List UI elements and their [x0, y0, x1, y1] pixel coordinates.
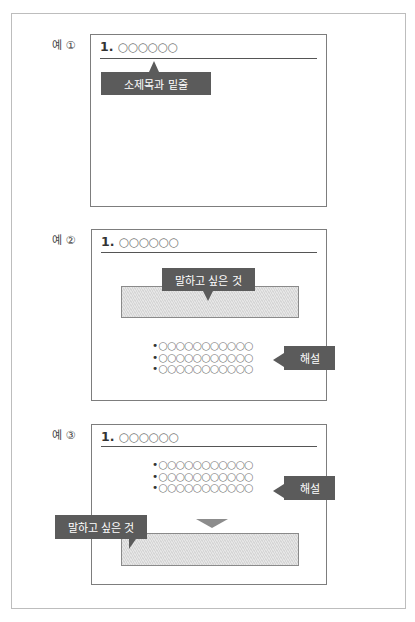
example-2-label: 예 ② [52, 231, 75, 247]
bullet-list: •○○○○○○○○○○○ •○○○○○○○○○○○ •○○○○○○○○○○○ [152, 459, 253, 494]
slide-title-text: ○○○○○○ [118, 235, 178, 249]
slide-title: 1. ○○○○○○ [101, 429, 178, 444]
example-2-slide: 1. ○○○○○○ 말하고 싶은 것 •○○○○○○○○○○○ •○○○○○○○… [91, 229, 327, 401]
callout-pointer-down-icon [129, 539, 136, 549]
bullet-list: •○○○○○○○○○○○ •○○○○○○○○○○○ •○○○○○○○○○○○ [152, 340, 253, 375]
callout-explanation: 해설 [284, 346, 335, 370]
slide-title-number: 1. [101, 234, 114, 249]
example-1-slide: 1. ○○○○○○ 소제목과 밑줄 [90, 34, 327, 207]
example-1-label: 예 ① [52, 36, 75, 52]
title-underline [100, 58, 317, 59]
callout-pointer-left-icon [273, 353, 284, 367]
callout-main-message: 말하고 싶은 것 [162, 268, 255, 291]
callout-main-message: 말하고 싶은 것 [55, 515, 147, 539]
example-3-label: 예 ③ [52, 426, 75, 442]
example-3-slide: 1. ○○○○○○ •○○○○○○○○○○○ •○○○○○○○○○○○ •○○○… [91, 424, 327, 585]
slide-title-number: 1. [101, 429, 114, 444]
title-underline [101, 252, 317, 253]
callout-subtitle-underline: 소제목과 밑줄 [101, 72, 211, 95]
bullet-item: •○○○○○○○○○○○ [152, 363, 253, 375]
callout-pointer-up-icon [149, 61, 159, 72]
slide-title-text: ○○○○○○ [118, 430, 178, 444]
title-underline [101, 446, 317, 447]
bullet-item: •○○○○○○○○○○○ [152, 482, 253, 494]
callout-pointer-down-icon [203, 291, 213, 301]
slide-title-number: 1. [100, 39, 113, 54]
slide-title-text: ○○○○○○ [117, 40, 177, 54]
down-arrow-icon [196, 519, 228, 528]
slide-title: 1. ○○○○○○ [100, 39, 177, 54]
slide-title: 1. ○○○○○○ [101, 234, 178, 249]
key-message-box [121, 533, 299, 566]
callout-pointer-left-icon [273, 484, 284, 498]
callout-explanation: 해설 [284, 476, 335, 500]
